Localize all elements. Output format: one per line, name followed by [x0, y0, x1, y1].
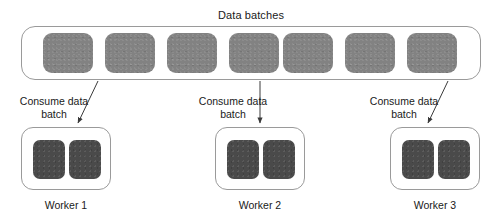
consume-label-line1: Consume data — [20, 95, 88, 107]
diagram-canvas: Data batches Consume data batch Consume … — [0, 0, 502, 223]
worker-box-3[interactable] — [390, 127, 480, 190]
worker-label-1: Worker 1 — [6, 199, 126, 211]
worker-2-chunk-1 — [227, 140, 259, 179]
worker-2-chunk-2 — [263, 140, 295, 179]
consume-label-line2: batch — [185, 108, 281, 121]
consume-label-line1: Consume data — [199, 95, 267, 107]
consume-label-line1: Consume data — [370, 95, 438, 107]
data-batch-1[interactable] — [43, 33, 93, 73]
worker-label-2: Worker 2 — [200, 199, 320, 211]
worker-box-1[interactable] — [21, 127, 111, 190]
consume-label-line2: batch — [356, 108, 452, 121]
worker-3-chunk-2 — [438, 140, 470, 179]
consume-label-worker-3: Consume data batch — [356, 95, 452, 121]
worker-label-3: Worker 3 — [375, 199, 495, 211]
data-batch-7[interactable] — [407, 33, 457, 73]
worker-3-chunk-1 — [402, 140, 434, 179]
data-batch-2[interactable] — [105, 33, 155, 73]
worker-box-2[interactable] — [215, 127, 305, 190]
consume-label-line2: batch — [6, 108, 102, 121]
data-batch-4[interactable] — [229, 33, 279, 73]
data-batch-6[interactable] — [345, 33, 395, 73]
data-batch-3[interactable] — [167, 33, 217, 73]
data-batch-5[interactable] — [283, 33, 333, 73]
worker-1-chunk-1 — [33, 140, 65, 179]
consume-label-worker-1: Consume data batch — [6, 95, 102, 121]
worker-1-chunk-2 — [69, 140, 101, 179]
consume-label-worker-2: Consume data batch — [185, 95, 281, 121]
diagram-title: Data batches — [0, 9, 502, 21]
